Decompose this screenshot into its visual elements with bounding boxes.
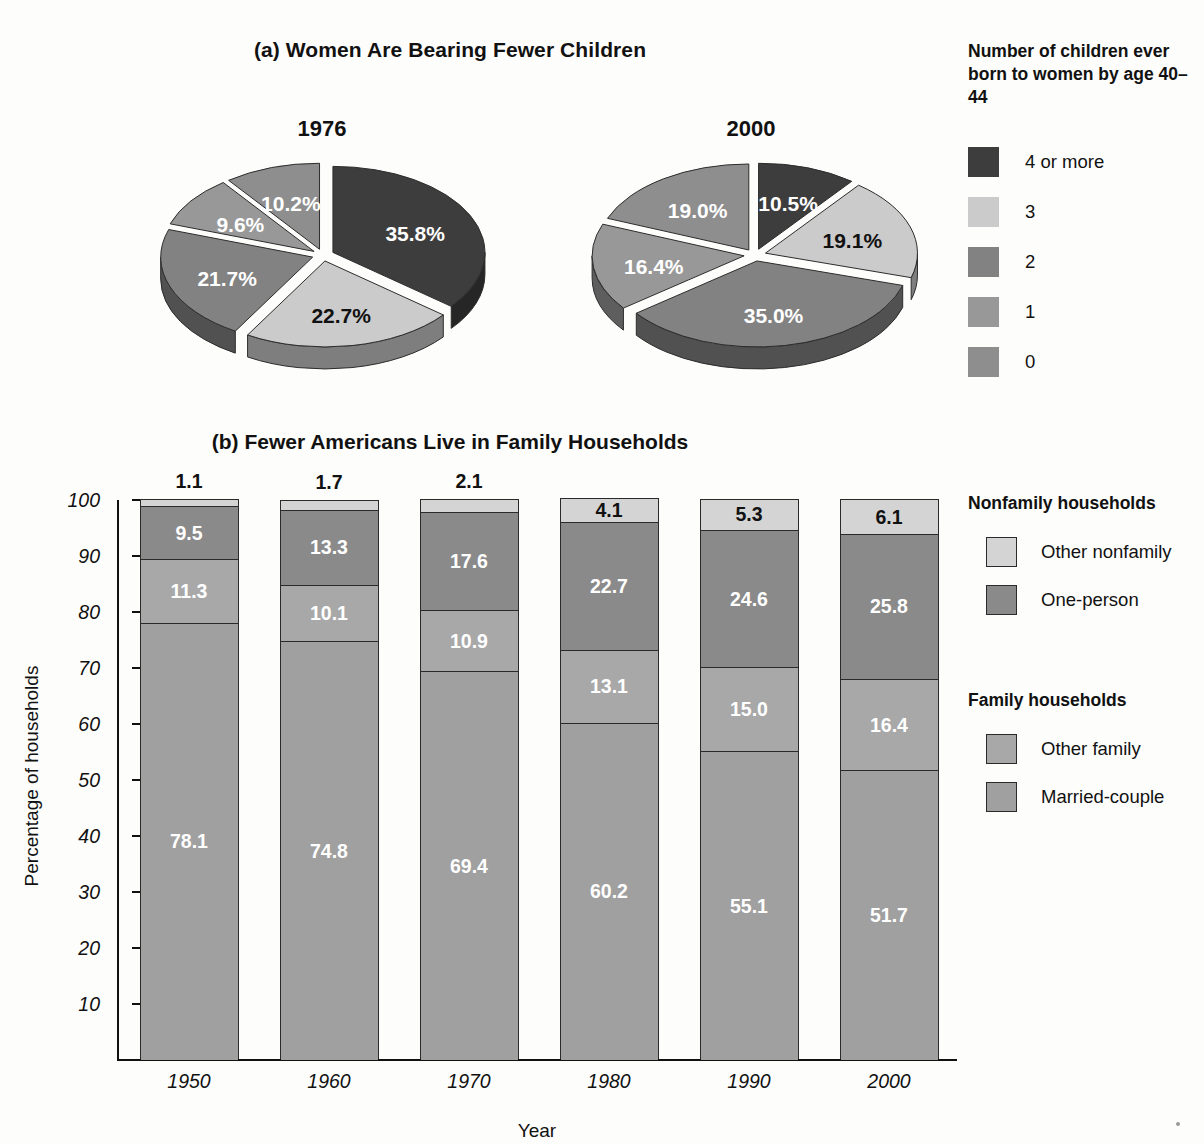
bar-top-value: 2.1 [420,470,519,493]
stacked-bar[interactable]: 17.610.969.4 [420,499,519,1059]
bar-segment[interactable] [281,501,378,511]
bar-segment[interactable]: 15.0 [701,667,798,751]
bar-segment-value: 78.1 [170,830,208,853]
bar-segment[interactable] [421,500,518,512]
bar-segment-value: 10.9 [450,630,488,653]
bar-segment-value: 24.6 [730,588,768,611]
legend-a-swatch [968,347,999,377]
y-tick-label: 20 [28,937,100,960]
legend-a-item[interactable]: 1 [968,297,1198,327]
legend-b-swatch [986,537,1017,567]
legend-b-item[interactable]: Other nonfamily [986,537,1204,567]
bar-segment-value: 11.3 [171,580,208,603]
bar-segment-value: 13.1 [590,675,628,698]
x-tick-label: 1960 [269,1070,389,1093]
x-tick-label: 2000 [829,1070,949,1093]
y-tick-label: 90 [28,545,100,568]
bar-top-value: 1.7 [280,471,379,494]
legend-b: Nonfamily households Other nonfamilyOne-… [968,492,1204,830]
bar-segment[interactable]: 16.4 [841,679,938,771]
legend-b-item[interactable]: Married-couple [986,782,1204,812]
bar-segment[interactable]: 24.6 [701,530,798,668]
bar-segment[interactable]: 78.1 [141,623,238,1060]
y-tick-label: 60 [28,713,100,736]
legend-a-label: 1 [1025,301,1035,323]
x-tick-label: 1980 [549,1070,669,1093]
stacked-bar[interactable]: 6.125.816.451.7 [840,499,939,1059]
legend-a-label: 3 [1025,201,1035,223]
legend-b-item[interactable]: Other family [986,734,1204,764]
legend-a-swatch [968,297,999,327]
stacked-bar[interactable]: 4.122.713.160.2 [560,498,659,1059]
bar-segment[interactable]: 4.1 [561,499,658,522]
y-tick-label: 30 [28,881,100,904]
bar-segment-value: 10.1 [310,602,348,625]
legend-a-item[interactable]: 3 [968,197,1198,227]
bar-segment[interactable]: 9.5 [141,506,238,559]
legend-a-item[interactable]: 0 [968,347,1198,377]
panel-a-title: (a) Women Are Bearing Fewer Children [0,38,900,62]
legend-a-item[interactable]: 2 [968,247,1198,277]
bar-segment-value: 4.1 [595,499,622,522]
y-tick-label: 40 [28,825,100,848]
bar-segment-value: 60.2 [590,880,628,903]
legend-a: 4 or more3210 [968,147,1198,397]
legend-a-label: 2 [1025,251,1035,273]
bar-segment[interactable]: 13.1 [561,650,658,723]
bar-segment[interactable]: 69.4 [421,671,518,1060]
legend-b-label: Married-couple [1041,786,1164,808]
bar-segment[interactable]: 13.3 [281,510,378,584]
bar-segment-value: 16.4 [870,714,908,737]
pie-svg [560,140,950,380]
y-tick-label: 80 [28,601,100,624]
legend-b-label: Other family [1041,738,1141,760]
stacked-bar[interactable]: 13.310.174.8 [280,500,379,1059]
bar-segment[interactable]: 11.3 [141,559,238,622]
bar-segment-value: 15.0 [730,698,768,721]
legend-b-swatch [986,734,1017,764]
bar-top-value: 1.1 [140,470,239,493]
legend-b-item[interactable]: One-person [986,585,1204,615]
bar-segment[interactable]: 10.9 [421,610,518,671]
legend-b-group2-items: Other familyMarried-couple [968,734,1204,812]
bar-segment[interactable]: 6.1 [841,500,938,534]
y-tick-label: 70 [28,657,100,680]
bar-segment[interactable]: 74.8 [281,641,378,1060]
bar-segment-value: 17.6 [450,550,488,573]
bar-segment-value: 9.5 [175,522,202,545]
figure-root: (a) Women Are Bearing Fewer Children 197… [0,0,1204,1144]
bar-segment[interactable]: 10.1 [281,585,378,642]
bar-segment-value: 55.1 [730,895,768,918]
stacked-bar[interactable]: 5.324.615.055.1 [700,499,799,1059]
bar-segment-value: 25.8 [870,595,908,618]
bar-segment[interactable]: 22.7 [561,522,658,649]
pie-svg [128,140,518,380]
bar-segment[interactable]: 17.6 [421,512,518,611]
bar-segment[interactable]: 60.2 [561,723,658,1060]
y-tick-label: 100 [28,489,100,512]
bars-area: 9.511.378.11.113.310.174.81.717.610.969.… [119,470,959,1061]
legend-a-swatch [968,247,999,277]
x-tick-label: 1970 [409,1070,529,1093]
bar-segment[interactable]: 25.8 [841,534,938,678]
legend-a-swatch [968,197,999,227]
legend-a-item[interactable]: 4 or more [968,147,1198,177]
legend-a-swatch [968,147,999,177]
pie-chart-2000: 10.5%19.1%35.0%16.4%19.0% [560,140,950,380]
bar-segment-value: 6.1 [875,506,902,529]
legend-b-group2-title: Family households [968,689,1204,712]
legend-a-label: 0 [1025,351,1035,373]
panel-b-title: (b) Fewer Americans Live in Family House… [0,430,900,454]
stacked-bar[interactable]: 9.511.378.1 [140,499,239,1059]
legend-b-group1-items: Other nonfamilyOne-person [968,537,1204,615]
legend-a-title: Number of children ever born to women by… [968,40,1198,109]
x-tick-label: 1990 [689,1070,809,1093]
bar-segment-value: 69.4 [450,855,488,878]
bar-segment[interactable]: 51.7 [841,770,938,1060]
bar-segment[interactable]: 5.3 [701,500,798,530]
legend-b-label: Other nonfamily [1041,541,1172,563]
bar-segment[interactable]: 55.1 [701,751,798,1060]
pie-chart-1976: 35.8%22.7%21.7%9.6%10.2% [128,140,518,380]
page-speck [1176,1122,1180,1126]
legend-b-swatch [986,585,1017,615]
